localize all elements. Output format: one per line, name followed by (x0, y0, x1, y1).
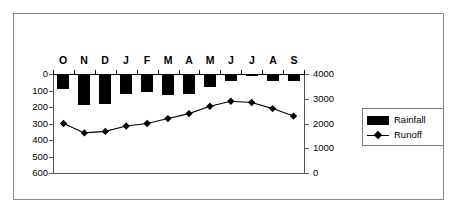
right-axis-tick (304, 173, 309, 174)
rainfall-bar (141, 74, 153, 92)
x-axis-tick (74, 70, 75, 75)
runoff-data-point (227, 98, 234, 105)
left-axis-tick (49, 107, 54, 108)
bottom-axis-line (53, 173, 305, 174)
legend-rainfall-swatch-icon (367, 116, 389, 125)
runoff-data-point (60, 120, 67, 127)
x-axis-tick (95, 70, 96, 75)
legend-rainfall-label: Rainfall (394, 115, 426, 125)
rainfall-bar (57, 74, 69, 89)
legend-item-runoff: Runoff (367, 128, 422, 142)
x-axis-tick (304, 70, 305, 75)
figure-frame: 0100200300400500600 40003000200010000 ON… (13, 13, 444, 200)
right-axis-tick-label: 1000 (313, 143, 347, 153)
x-axis-tick (137, 70, 138, 75)
x-axis-tick (158, 70, 159, 75)
left-axis-tick (49, 173, 54, 174)
chart-legend: Rainfall Runoff (362, 108, 444, 146)
right-axis-tick (304, 99, 309, 100)
x-axis-tick (116, 70, 117, 75)
rainfall-bar (99, 74, 111, 104)
runoff-data-point (185, 110, 192, 117)
left-axis-tick (49, 124, 54, 125)
rainfall-bar (267, 74, 279, 81)
right-axis-tick (304, 124, 309, 125)
left-axis-tick-label: 0 (17, 69, 48, 79)
x-axis-category-label: S (282, 55, 306, 66)
legend-item-rainfall: Rainfall (367, 113, 426, 127)
right-axis-tick (304, 148, 309, 149)
rainfall-bar (225, 74, 237, 81)
rainfall-bar (246, 74, 258, 76)
legend-runoff-swatch-icon (367, 131, 389, 140)
left-axis-tick (49, 91, 54, 92)
rainfall-bar (120, 74, 132, 94)
runoff-data-point (269, 105, 276, 112)
runoff-data-point (248, 99, 255, 106)
x-axis-tick (262, 70, 263, 75)
x-axis-tick (283, 70, 284, 75)
rainfall-bar (204, 74, 216, 87)
x-axis-tick (241, 70, 242, 75)
left-axis-tick-label: 600 (17, 168, 48, 178)
rainfall-bar (162, 74, 174, 95)
right-axis-tick-label: 3000 (313, 94, 347, 104)
runoff-data-point (102, 128, 109, 135)
rainfall-bar (78, 74, 90, 105)
chart-figure: 0100200300400500600 40003000200010000 ON… (0, 0, 455, 213)
left-axis-tick-label: 100 (17, 86, 48, 96)
runoff-data-point (123, 122, 130, 129)
x-axis-tick (220, 70, 221, 75)
rainfall-bar (288, 74, 300, 81)
x-axis-tick (179, 70, 180, 75)
right-axis-tick-label: 0 (313, 168, 347, 178)
rainfall-bar (183, 74, 195, 94)
legend-runoff-label: Runoff (394, 130, 422, 140)
runoff-data-point (290, 112, 297, 119)
x-axis-tick (53, 70, 54, 75)
left-axis-tick-label: 200 (17, 102, 48, 112)
runoff-data-point (143, 120, 150, 127)
left-axis-tick-label: 500 (17, 152, 48, 162)
right-axis-tick-label: 2000 (313, 119, 347, 129)
left-axis-tick-label: 300 (17, 119, 48, 129)
runoff-data-point (206, 103, 213, 110)
left-axis-tick (49, 140, 54, 141)
runoff-data-point (164, 115, 171, 122)
right-axis-tick-label: 4000 (313, 69, 347, 79)
runoff-data-point (81, 129, 88, 136)
left-axis-tick (49, 157, 54, 158)
x-axis-tick (199, 70, 200, 75)
left-axis-tick-label: 400 (17, 135, 48, 145)
